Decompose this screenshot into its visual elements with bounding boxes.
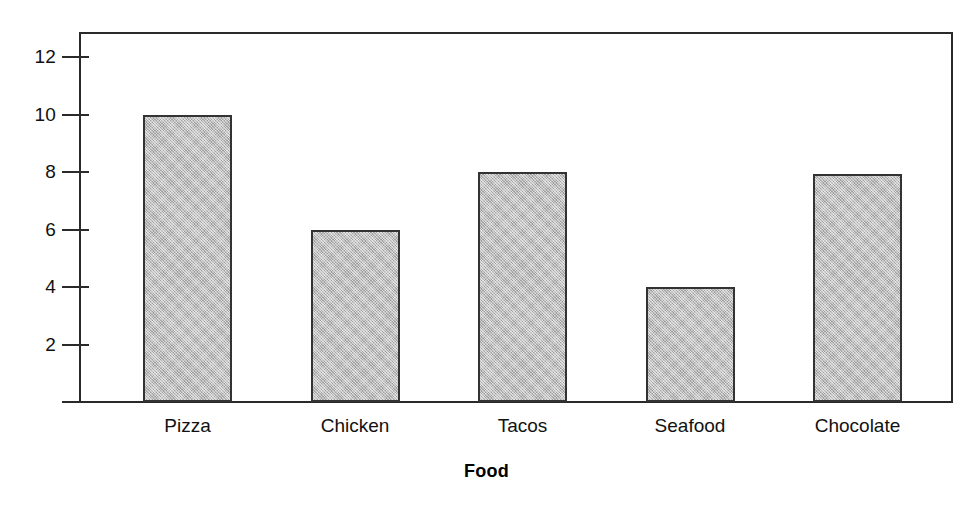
bar bbox=[646, 287, 735, 402]
x-axis-category-label: Seafood bbox=[600, 415, 780, 437]
bar bbox=[143, 115, 232, 402]
x-axis-title: Food bbox=[0, 461, 973, 482]
bar bbox=[478, 172, 567, 402]
bar bbox=[813, 174, 902, 402]
x-axis-category-label: Pizza bbox=[98, 415, 278, 437]
x-axis-category-label: Tacos bbox=[433, 415, 613, 437]
x-axis-category-label: Chocolate bbox=[768, 415, 948, 437]
x-axis-category-label: Chicken bbox=[265, 415, 445, 437]
bar bbox=[311, 230, 400, 402]
bar-chart: 12108642 PizzaChickenTacosSeafoodChocola… bbox=[0, 0, 973, 513]
